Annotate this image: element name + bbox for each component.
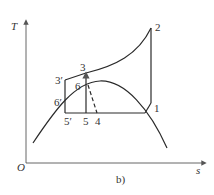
point-label-3: 3 [80, 61, 86, 73]
axis-label-T: T [11, 20, 18, 32]
point-label-3p: 3′ [55, 74, 63, 86]
point-label-5p: 5′ [64, 115, 72, 127]
line-1-evap [145, 103, 151, 113]
axis-label-s: s [196, 164, 200, 176]
point-label-4: 4 [95, 115, 101, 127]
origin-label: O [17, 161, 25, 173]
point-label-6p: 6′ [54, 96, 62, 108]
caption: b) [116, 173, 126, 186]
compression-curve [65, 28, 151, 80]
point-label-2: 2 [155, 21, 161, 33]
point-label-5: 5 [83, 115, 89, 127]
ts-diagram: T s O b) 2 1 3 3′ 6 6′ 5′ 5 4 [0, 0, 214, 195]
point-label-6: 6 [75, 80, 81, 92]
point-label-1: 1 [154, 102, 160, 114]
line-6-4-dashed [88, 85, 97, 113]
